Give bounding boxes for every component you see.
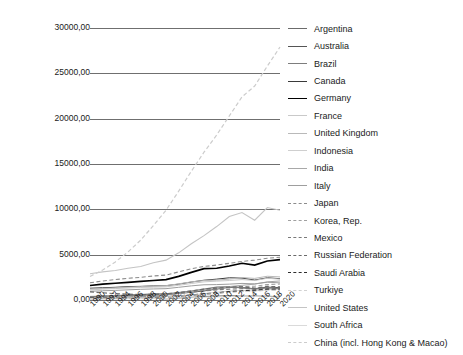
legend-item[interactable]: France (288, 107, 463, 124)
legend-item-label: United States (314, 303, 368, 313)
legend-item[interactable]: Korea, Rep. (288, 212, 463, 229)
legend-swatch-icon (288, 255, 307, 256)
legend-item-label: Turkiye (314, 285, 343, 295)
series-line (90, 47, 280, 276)
legend-swatch-icon (288, 307, 307, 308)
y-axis-tick-label: 5000,00 (4, 249, 90, 259)
legend-swatch-icon (288, 63, 307, 64)
legend-item-label: Germany (314, 93, 351, 103)
legend-item[interactable]: Indonesia (288, 142, 463, 159)
legend-swatch-icon (288, 325, 307, 326)
legend-swatch-icon (288, 290, 307, 291)
legend-item[interactable]: United Kingdom (288, 125, 463, 142)
legend-swatch-icon (288, 220, 307, 221)
legend-item-label: France (314, 111, 342, 121)
legend-swatch-icon (288, 237, 307, 238)
legend-item-label: Saudi Arabia (314, 268, 365, 278)
legend-swatch-icon (288, 185, 307, 186)
legend-swatch-icon (288, 168, 307, 169)
series-lines (90, 28, 280, 300)
legend-item-label: Korea, Rep. (314, 216, 362, 226)
legend-swatch-icon (288, 150, 307, 151)
legend-item[interactable]: Saudi Arabia (288, 264, 463, 281)
legend-item-label: Italy (314, 181, 331, 191)
legend-item-label: India (314, 163, 334, 173)
legend-item[interactable]: China (incl. Hong Kong & Macao) (288, 334, 463, 351)
y-axis-tick-label: 30000,00 (4, 22, 90, 32)
series-line (90, 260, 280, 286)
legend-swatch-icon (288, 98, 307, 99)
legend-item-label: Mexico (314, 233, 343, 243)
legend-item[interactable]: India (288, 160, 463, 177)
legend-swatch-icon (288, 46, 307, 47)
legend-item-label: Indonesia (314, 146, 353, 156)
legend-swatch-icon (288, 342, 307, 343)
legend-item-label: Argentina (314, 24, 353, 34)
y-axis-tick-label: 10000,00 (4, 203, 90, 213)
legend-item-label: South Africa (314, 320, 363, 330)
legend-swatch-icon (288, 272, 307, 273)
legend-item[interactable]: Turkiye (288, 282, 463, 299)
legend-item[interactable]: Canada (288, 72, 463, 89)
legend-item[interactable]: Brazil (288, 55, 463, 72)
chart-screenshot: 30000,0025000,0020000,0015000,0010000,00… (0, 0, 463, 355)
legend-item[interactable]: Italy (288, 177, 463, 194)
y-axis-tick-label: 25000,00 (4, 67, 90, 77)
legend-item-label: Canada (314, 76, 346, 86)
y-axis-tick-label: 0,00 (4, 294, 90, 304)
legend-item[interactable]: South Africa (288, 316, 463, 333)
x-axis-labels: 1990199219941996199820002002200420062008… (90, 302, 290, 355)
legend-item-label: Japan (314, 198, 339, 208)
legend-item-label: China (incl. Hong Kong & Macao) (314, 338, 448, 348)
legend-swatch-icon (288, 115, 307, 116)
legend-item-label: Russian Federation (314, 250, 392, 260)
y-axis-tick-label: 20000,00 (4, 113, 90, 123)
legend-item[interactable]: Japan (288, 194, 463, 211)
legend-item[interactable]: Russian Federation (288, 247, 463, 264)
legend-swatch-icon (288, 28, 307, 29)
legend-item[interactable]: Germany (288, 90, 463, 107)
legend-item-label: United Kingdom (314, 128, 378, 138)
line-chart: 30000,0025000,0020000,0015000,0010000,00… (0, 0, 292, 355)
legend-item[interactable]: Australia (288, 37, 463, 54)
legend-item[interactable]: United States (288, 299, 463, 316)
legend-item-label: Brazil (314, 59, 337, 69)
legend-item-label: Australia (314, 41, 349, 51)
legend-item[interactable]: Argentina (288, 20, 463, 37)
legend-swatch-icon (288, 133, 307, 134)
chart-legend: ArgentinaAustraliaBrazilCanadaGermanyFra… (288, 20, 463, 351)
legend-swatch-icon (288, 203, 307, 204)
y-axis-tick-label: 15000,00 (4, 158, 90, 168)
legend-item[interactable]: Mexico (288, 229, 463, 246)
y-axis-labels: 30000,0025000,0020000,0015000,0010000,00… (0, 0, 90, 355)
legend-swatch-icon (288, 81, 307, 82)
